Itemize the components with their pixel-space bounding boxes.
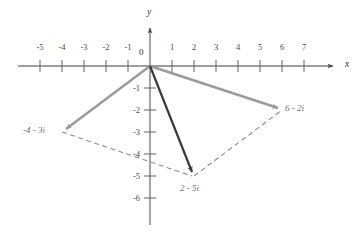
x-tick-label-1: 1 [165, 43, 179, 52]
origin-label: 0 [139, 48, 144, 57]
y-tick-label--2: -2 [126, 106, 140, 115]
x-tick-label-7: 7 [297, 43, 311, 52]
vector-2-minus5i [150, 66, 192, 172]
dashed-line-right [194, 110, 282, 176]
point-label-minus4-minus3i: -4 - 3i [23, 126, 45, 135]
vectors [66, 66, 278, 172]
y-tick-label--1: -1 [126, 84, 140, 93]
x-tick-label--2: -2 [99, 43, 113, 52]
vector-minus4-minus3i [66, 66, 150, 129]
vector-6-minus2i [150, 66, 278, 108]
x-tick-label-5: 5 [253, 43, 267, 52]
y-tick-label--6: -6 [126, 194, 140, 203]
x-tick-label--3: -3 [77, 43, 91, 52]
point-label-2-minus5i: 2 - 5i [180, 184, 199, 193]
x-tick-label-6: 6 [275, 43, 289, 52]
x-tick-label-4: 4 [231, 43, 245, 52]
point-label-6-minus2i: 6 - 2i [285, 104, 304, 113]
x-tick-label--1: -1 [121, 43, 135, 52]
x-tick-label--4: -4 [55, 43, 69, 52]
complex-plane-figure [0, 0, 360, 240]
y-axis-label: y [147, 8, 151, 18]
x-tick-label--5: -5 [33, 43, 47, 52]
y-tick-label--4: -4 [126, 150, 140, 159]
x-tick-label-2: 2 [187, 43, 201, 52]
y-tick-label--5: -5 [126, 172, 140, 181]
x-tick-label-3: 3 [209, 43, 223, 52]
y-tick-label--3: -3 [126, 128, 140, 137]
x-axis-label: x [345, 60, 349, 70]
